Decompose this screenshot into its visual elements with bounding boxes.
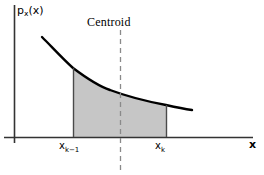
x-axis-label: x (249, 139, 256, 150)
y-axis-label: px(x) (17, 5, 44, 16)
plot-canvas (0, 0, 264, 175)
x-tick-label-k-minus-1: xk−1 (59, 141, 79, 151)
centroid-label: Centroid (87, 16, 131, 28)
probability-density-bin-figure: px(x) Centroid xk−1 xk x (0, 0, 264, 175)
x-tick-label-k: xk (155, 141, 165, 151)
